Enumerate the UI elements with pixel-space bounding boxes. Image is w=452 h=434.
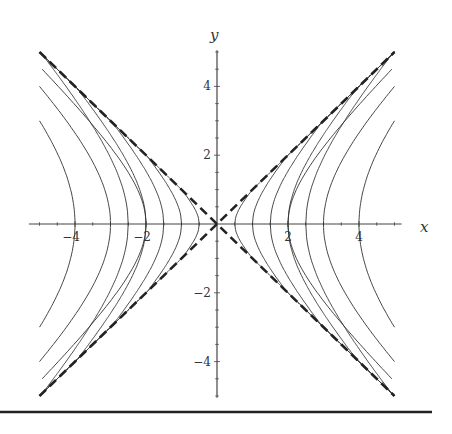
y-axis-label: y (209, 26, 219, 44)
x-axis-label: x (420, 218, 429, 236)
x-tick-label: −2 (133, 230, 151, 244)
y-tick-label: 2 (203, 148, 211, 162)
x-tick-label: −4 (62, 230, 80, 244)
y-tick-label: −4 (193, 355, 211, 369)
y-tick-label: −2 (193, 286, 211, 300)
y-tick-label: 4 (203, 79, 211, 93)
hyperbola-plot: −4−224−4−224 x y (0, 0, 452, 434)
